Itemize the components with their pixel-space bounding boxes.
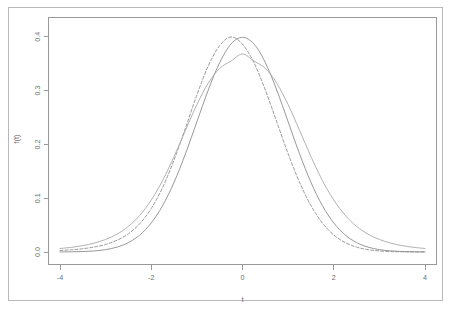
y-axis-title: f(t) (12, 134, 21, 144)
y-tick-label: 0.4 (33, 32, 42, 42)
x-tick-label: 2 (332, 273, 336, 282)
x-tick-label: 0 (241, 273, 245, 282)
y-tick-label: 0.0 (33, 247, 42, 257)
y-tick-label: 0.1 (33, 193, 42, 203)
density-curves (48, 17, 437, 265)
x-tick-label: -4 (57, 273, 63, 282)
figure-container: 0.00.10.20.30.4f(t) -4-2024t (0, 0, 452, 315)
y-tick-label: 0.3 (33, 86, 42, 96)
curve-t-dashed (60, 37, 425, 252)
x-tick-label: 4 (423, 273, 427, 282)
y-tick-label: 0.2 (33, 139, 42, 149)
curve-normal (60, 37, 425, 252)
x-axis: -4-2024t (0, 258, 452, 280)
curve-t-low-df (60, 54, 425, 249)
x-tick-label: -2 (148, 273, 154, 282)
plot-area (48, 17, 437, 265)
